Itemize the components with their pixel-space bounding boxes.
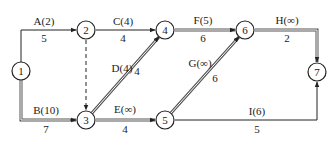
node-4-label: 4	[162, 24, 168, 36]
edge-g-value: 6	[212, 72, 218, 84]
node-3: 3	[77, 111, 95, 129]
edge-b-label: B(10)	[33, 104, 59, 117]
edge-e-value: 4	[122, 123, 128, 135]
edge-a-label: A(2)	[34, 15, 55, 28]
edge-h: H(∞) 2	[255, 14, 317, 62]
node-5: 5	[156, 111, 174, 129]
edge-g-label: G(∞)	[188, 57, 211, 70]
edge-a-value: 5	[41, 32, 47, 44]
edge-e: E(∞) 4	[96, 103, 155, 135]
node-2-label: 2	[83, 24, 89, 36]
edge-e-label: E(∞)	[114, 103, 136, 116]
node-2: 2	[77, 21, 95, 39]
edge-i-value: 5	[254, 123, 260, 135]
edge-c-label: C(4)	[113, 15, 134, 28]
node-1: 1	[12, 62, 30, 80]
edge-g: G(∞) 6	[171, 37, 239, 113]
node-4: 4	[156, 21, 174, 39]
edge-c-value: 4	[120, 32, 126, 44]
edge-h-value: 2	[284, 32, 290, 44]
node-1-label: 1	[18, 65, 24, 77]
node-7-label: 7	[314, 66, 320, 78]
edge-f-value: 6	[200, 32, 206, 44]
network-diagram: A(2) 5 B(10) 7 C(4) 4 D(4) 4 E(∞) 4	[0, 0, 334, 141]
node-5-label: 5	[162, 114, 168, 126]
edge-h-label: H(∞)	[275, 14, 298, 27]
edge-f: F(5) 6	[175, 14, 235, 44]
edge-b-value: 7	[43, 123, 49, 135]
edge-d-value: 4	[134, 65, 140, 77]
edge-b: B(10) 7	[21, 79, 76, 135]
edge-c: C(4) 4	[96, 15, 155, 44]
edge-d-label: D(4)	[112, 62, 133, 75]
edge-i: I(6) 5	[175, 82, 317, 135]
edge-a: A(2) 5	[21, 15, 76, 63]
node-6-label: 6	[242, 24, 248, 36]
node-3-label: 3	[83, 114, 89, 126]
node-6: 6	[236, 21, 254, 39]
edge-f-label: F(5)	[194, 14, 213, 27]
node-7: 7	[308, 63, 326, 81]
edge-d: D(4) 4	[92, 37, 159, 113]
edge-i-label: I(6)	[249, 105, 266, 118]
